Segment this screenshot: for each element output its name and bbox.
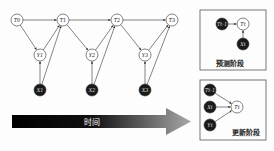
predict-node-Tt: Tt [237, 18, 249, 30]
svg-text:X1: X1 [36, 87, 44, 93]
main-node-Y1: Y1 [34, 49, 46, 61]
update-caption: 更新阶段 [232, 127, 260, 137]
main-node-Y3: Y3 [139, 49, 151, 61]
predict-node-Xt: Xt [237, 38, 249, 50]
main-node-T0: T0 [11, 14, 23, 26]
main-node-Y2: Y2 [86, 49, 98, 61]
update-node-Yt: Yt [204, 119, 216, 131]
main-edge-T0-Y1 [20, 25, 36, 50]
time-label: 时间 [84, 116, 100, 127]
main-edge-T2-Y3 [121, 25, 141, 50]
main-node-T1: T1 [57, 14, 69, 26]
main-node-X3: X3 [139, 84, 151, 96]
main-node-T3: T3 [166, 14, 178, 26]
main-edge-T1-Y2 [67, 25, 88, 50]
svg-text:T0: T0 [14, 17, 21, 23]
time-arrow [12, 108, 191, 135]
svg-text:Xt: Xt [206, 104, 214, 110]
update-edge-Tprev-Tt [215, 93, 231, 103]
svg-text:Y2: Y2 [89, 52, 95, 58]
svg-text:T2: T2 [114, 17, 121, 23]
main-node-T2: T2 [111, 14, 123, 26]
svg-text:T1: T1 [60, 17, 67, 23]
svg-text:X2: X2 [88, 87, 96, 93]
predict-node-Tprev: Tt-1 [216, 18, 228, 30]
update-node-Xt: Xt [204, 101, 216, 113]
update-node-Tprev: Tt-1 [204, 84, 216, 96]
svg-text:Tt-1: Tt-1 [205, 87, 215, 93]
diagram-canvas: T0T1T2T3Y1Y2Y3X1X2X3 Tt-1TtXtTt-1XtYtTt … [0, 0, 274, 151]
main-node-X1: X1 [34, 84, 46, 96]
svg-text:Y3: Y3 [142, 52, 148, 58]
main-node-X2: X2 [86, 84, 98, 96]
svg-text:T3: T3 [169, 17, 176, 23]
svg-text:Tt-1: Tt-1 [217, 21, 227, 27]
svg-text:Xt: Xt [239, 41, 247, 47]
update-node-Tt: Tt [231, 101, 243, 113]
update-edge-Yt-Tt [215, 111, 232, 122]
predict-caption: 预测阶段 [216, 58, 244, 68]
svg-text:X3: X3 [141, 87, 149, 93]
svg-text:Y1: Y1 [37, 52, 43, 58]
